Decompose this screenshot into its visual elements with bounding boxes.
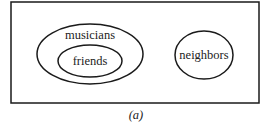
neighbors-label: neighbors [179,48,228,62]
friends-label: friends [73,54,108,68]
musicians-label: musicians [65,28,115,42]
figure-caption: (a) [129,108,144,122]
euler-diagram: musicians friends neighbors (a) [0,0,272,122]
